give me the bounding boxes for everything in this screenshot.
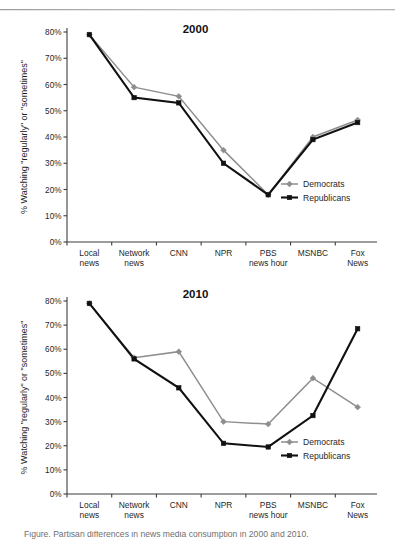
chart-svg-2000: 20000%10%20%30%40%50%60%70%80%LocalnewsN…	[0, 14, 395, 279]
legend-marker-democrats	[287, 181, 293, 187]
y-tick-label: 20%	[45, 186, 61, 195]
x-tick-label: NPR	[215, 248, 233, 258]
x-tick-label: Fox	[351, 500, 366, 510]
chart-title-2010: 2010	[183, 288, 209, 300]
y-tick-label: 70%	[45, 54, 61, 63]
chart-svg-2010: 20100%10%20%30%40%50%60%70%80%LocalnewsN…	[0, 279, 395, 527]
y-tick-label: 60%	[45, 81, 61, 90]
figure-caption-strip: Figure. Partisan differences in news med…	[0, 531, 395, 546]
y-tick-label: 0%	[50, 490, 62, 499]
data-point-republicans	[266, 193, 270, 197]
y-tick-label: 50%	[45, 107, 61, 116]
y-tick-label: 60%	[45, 345, 61, 354]
y-tick-label: 10%	[45, 466, 61, 475]
legend-marker-republicans	[287, 195, 291, 199]
x-tick-label: MSNBC	[298, 500, 328, 510]
legend-marker-republicans	[287, 453, 291, 457]
x-tick-label: Network	[119, 248, 151, 258]
legend-label-republicans: Republicans	[303, 193, 350, 203]
y-tick-label: 80%	[45, 28, 61, 37]
data-point-republicans	[311, 413, 315, 417]
legend-marker-democrats	[287, 439, 293, 445]
legend-label-democrats: Democrats	[303, 437, 345, 447]
data-point-republicans	[87, 32, 91, 36]
data-point-republicans	[221, 161, 225, 165]
data-point-republicans	[355, 327, 359, 331]
x-tick-label: Network	[119, 500, 151, 510]
data-point-republicans	[132, 357, 136, 361]
x-tick-label: Local	[79, 248, 99, 258]
chart-panel-2010: 20100%10%20%30%40%50%60%70%80%LocalnewsN…	[0, 279, 395, 527]
y-tick-label: 10%	[45, 212, 61, 221]
legend-label-republicans: Republicans	[303, 451, 350, 461]
data-point-republicans	[221, 441, 225, 445]
x-tick-label: news	[124, 258, 144, 268]
data-point-republicans	[266, 445, 270, 449]
data-point-republicans	[355, 120, 359, 124]
x-tick-label: news hour	[249, 510, 288, 520]
chart-panel-2000: 20000%10%20%30%40%50%60%70%80%LocalnewsN…	[0, 14, 395, 279]
y-tick-label: 80%	[45, 297, 61, 306]
y-tick-label: 40%	[45, 394, 61, 403]
x-tick-label: news	[80, 258, 100, 268]
x-tick-label: news hour	[249, 258, 288, 268]
x-tick-label: CNN	[170, 500, 188, 510]
data-point-republicans	[132, 95, 136, 99]
legend-label-democrats: Democrats	[303, 179, 345, 189]
chart-title-2000: 2000	[183, 23, 209, 35]
data-point-republicans	[177, 386, 181, 390]
data-point-republicans	[311, 137, 315, 141]
y-tick-label: 30%	[45, 418, 61, 427]
data-point-republicans	[177, 101, 181, 105]
y-tick-label: 40%	[45, 133, 61, 142]
x-tick-label: PBS	[260, 248, 277, 258]
y-axis-title: % Watching "regularly" or "sometimes"	[19, 321, 29, 475]
y-axis-title: % Watching "regularly" or "sometimes"	[19, 60, 29, 214]
y-tick-label: 30%	[45, 159, 61, 168]
x-tick-label: news	[124, 510, 144, 520]
y-tick-label: 0%	[50, 238, 62, 247]
x-tick-label: NPR	[215, 500, 233, 510]
x-tick-label: MSNBC	[298, 248, 328, 258]
x-tick-label: News	[347, 258, 368, 268]
top-divider-rule-shadow	[0, 10, 395, 11]
x-tick-label: News	[347, 510, 368, 520]
x-tick-label: PBS	[260, 500, 277, 510]
x-tick-label: Local	[79, 500, 99, 510]
x-tick-label: Fox	[351, 248, 366, 258]
y-tick-label: 50%	[45, 369, 61, 378]
series-line-republicans	[89, 303, 357, 447]
y-tick-label: 70%	[45, 321, 61, 330]
y-tick-label: 20%	[45, 442, 61, 451]
x-tick-label: CNN	[170, 248, 188, 258]
series-line-democrats	[89, 35, 357, 195]
figure-caption: Figure. Partisan differences in news med…	[24, 531, 309, 539]
x-tick-label: news	[80, 510, 100, 520]
data-point-republicans	[87, 301, 91, 305]
series-line-republicans	[89, 35, 357, 195]
